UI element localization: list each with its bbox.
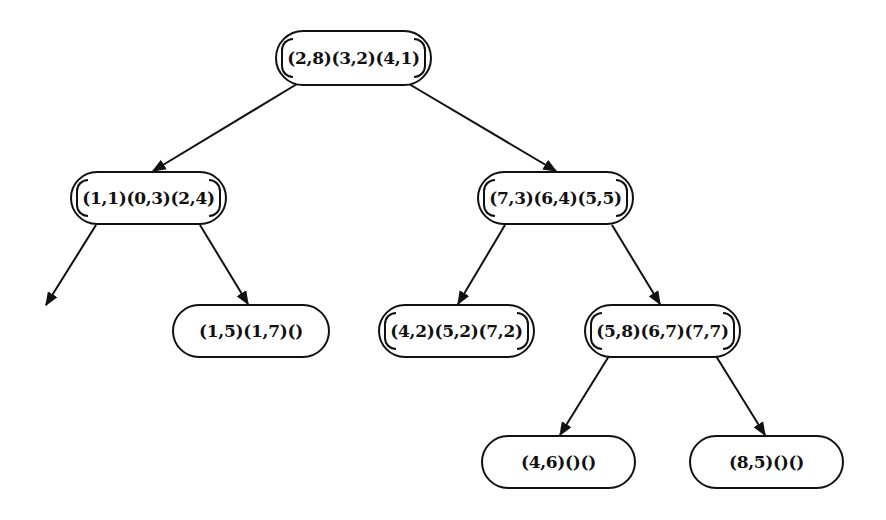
tree-node-right-right-left: (4,6)()()	[481, 435, 636, 489]
node-label: (7,3)(6,4)(5,5)	[487, 188, 624, 208]
dangling-edge-arrow	[46, 225, 96, 305]
tree-node-right-right-right: (8,5)()()	[689, 435, 844, 489]
tree-node-root: (2,8)(3,2)(4,1)	[275, 30, 432, 86]
tree-diagram: (2,8)(3,2)(4,1) (1,1)(0,3)(2,4) (7,3)(6,…	[0, 0, 886, 520]
node-label: (5,8)(6,7)(7,7)	[594, 321, 731, 341]
tree-node-left-right: (1,5)(1,7)()	[172, 304, 330, 358]
node-label: (2,8)(3,2)(4,1)	[285, 48, 422, 68]
tree-node-right-right: (5,8)(6,7)(7,7)	[584, 304, 741, 358]
edge-arrow	[409, 84, 556, 171]
edge-arrow	[200, 225, 248, 304]
node-label: (8,5)()()	[729, 452, 804, 472]
edge-arrow	[458, 225, 505, 304]
edge-arrow	[612, 225, 660, 304]
node-label: (1,5)(1,7)()	[199, 321, 303, 341]
node-label: (4,6)()()	[521, 452, 596, 472]
node-label: (1,1)(0,3)(2,4)	[80, 188, 217, 208]
edge-arrow	[716, 356, 765, 435]
node-label: (4,2)(5,2)(7,2)	[388, 321, 525, 341]
tree-node-left: (1,1)(0,3)(2,4)	[70, 171, 227, 225]
tree-node-right: (7,3)(6,4)(5,5)	[477, 171, 634, 225]
tree-node-right-left: (4,2)(5,2)(7,2)	[378, 304, 535, 358]
edge-arrow	[153, 84, 297, 171]
edge-arrow	[560, 356, 609, 435]
